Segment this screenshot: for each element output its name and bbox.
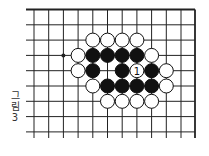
white-stone-icon — [71, 64, 85, 78]
black-stone — [115, 79, 129, 93]
star-point-icon — [61, 53, 65, 57]
stones-layer: 1 — [71, 33, 173, 108]
white-stone-icon — [115, 94, 129, 108]
black-stone-icon — [130, 79, 144, 93]
black-stone-icon — [115, 79, 129, 93]
black-stone — [115, 48, 129, 62]
white-stone-icon — [86, 33, 100, 47]
black-stone — [130, 48, 144, 62]
black-stone — [101, 79, 115, 93]
black-stone — [101, 48, 115, 62]
white-stone-icon — [159, 79, 173, 93]
white-stone — [101, 94, 115, 108]
black-stone — [130, 79, 144, 93]
black-stone-icon — [130, 48, 144, 62]
black-stone-icon — [145, 79, 159, 93]
black-stone — [145, 79, 159, 93]
black-stone-icon — [101, 48, 115, 62]
white-stone-icon — [145, 48, 159, 62]
white-stone — [130, 33, 144, 47]
black-stone-icon — [86, 48, 100, 62]
figure-label: 그 림 3 — [9, 90, 21, 123]
black-stone — [145, 64, 159, 78]
move-number: 1 — [134, 66, 140, 77]
white-stone — [86, 33, 100, 47]
white-stone-icon — [115, 33, 129, 47]
black-stone-icon — [145, 64, 159, 78]
black-stone-icon — [86, 64, 100, 78]
black-stone-icon — [115, 48, 129, 62]
white-stone — [71, 64, 85, 78]
go-board-diagram: 1 — [0, 0, 209, 156]
star-point-marks — [61, 53, 65, 57]
figure-label-line-1: 그 — [9, 90, 21, 101]
white-stone-icon — [86, 79, 100, 93]
figure-label-line-2: 림 — [9, 101, 21, 112]
white-stone — [145, 48, 159, 62]
white-stone — [101, 33, 115, 47]
white-stone-icon — [71, 48, 85, 62]
black-stone-icon — [101, 79, 115, 93]
white-stone — [71, 48, 85, 62]
white-stone — [145, 94, 159, 108]
white-stone-icon — [101, 94, 115, 108]
white-stone — [130, 94, 144, 108]
black-stone — [86, 64, 100, 78]
white-stone — [159, 64, 173, 78]
white-stone-icon — [159, 64, 173, 78]
white-stone — [86, 79, 100, 93]
black-stone — [115, 64, 129, 78]
white-stone-icon — [130, 33, 144, 47]
white-stone: 1 — [130, 64, 144, 78]
white-stone — [115, 94, 129, 108]
black-stone — [86, 48, 100, 62]
white-stone-icon — [145, 94, 159, 108]
black-stone-icon — [115, 64, 129, 78]
white-stone — [115, 33, 129, 47]
white-stone-icon — [130, 94, 144, 108]
figure-label-line-3: 3 — [9, 112, 21, 123]
white-stone-icon — [101, 33, 115, 47]
white-stone — [159, 79, 173, 93]
